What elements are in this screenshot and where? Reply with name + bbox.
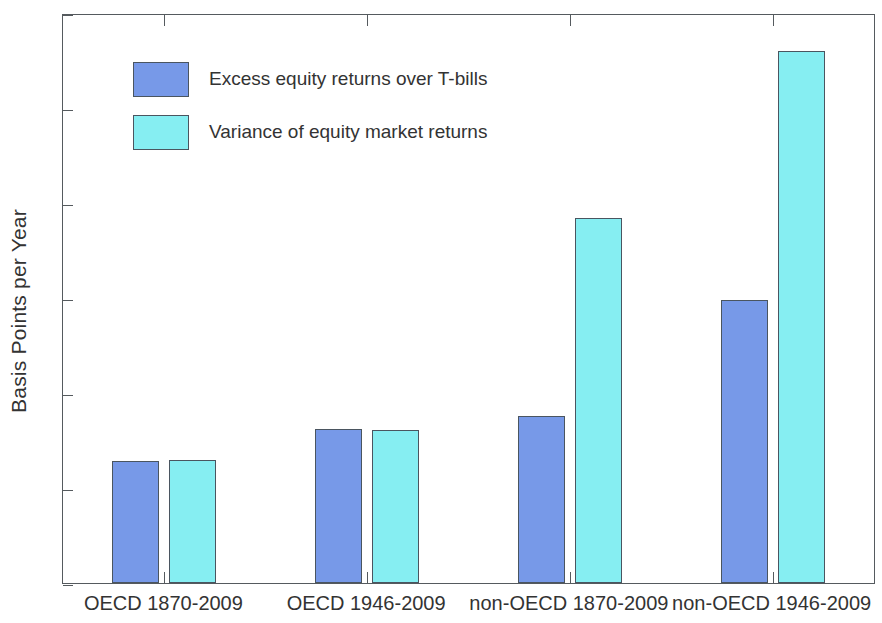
x-category-label: non-OECD 1946-2009	[672, 592, 871, 615]
bar	[721, 300, 768, 583]
y-axis-title: Basis Points per Year	[7, 161, 31, 461]
bar-chart-figure: Basis Points per Year 050010001500200025…	[0, 0, 882, 623]
legend-label-series1: Variance of equity market returns	[209, 121, 487, 143]
bar	[372, 430, 419, 583]
legend-swatch-series1	[133, 115, 189, 150]
x-category-label: OECD 1870-2009	[84, 592, 243, 615]
legend-swatch-series0	[133, 62, 189, 97]
bar	[112, 461, 159, 583]
plot-area: 050010001500200025003000 Excess equity r…	[62, 14, 875, 584]
bar	[315, 429, 362, 583]
bar	[778, 51, 825, 583]
bar	[518, 416, 565, 583]
legend-item-0[interactable]: Excess equity returns over T-bills	[133, 61, 487, 97]
bar	[575, 218, 622, 583]
legend-item-1[interactable]: Variance of equity market returns	[133, 114, 487, 150]
y-tick-mark	[63, 585, 73, 586]
x-category-label: OECD 1946-2009	[287, 592, 446, 615]
chart-legend: Excess equity returns over T-bills Varia…	[133, 47, 463, 157]
bar	[169, 460, 216, 583]
legend-label-series0: Excess equity returns over T-bills	[209, 68, 487, 90]
x-category-label: non-OECD 1870-2009	[469, 592, 668, 615]
